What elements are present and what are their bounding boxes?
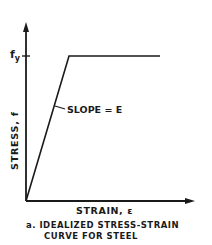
stress-axis-label: STRESS, f	[9, 111, 20, 170]
caption-line-2: CURVE FOR STEEL	[44, 231, 138, 241]
stress-axis-arrow-icon	[23, 22, 29, 32]
stress-strain-curve	[26, 56, 160, 201]
strain-axis-label: STRAIN, ε	[76, 205, 133, 216]
slope-label: SLOPE = E	[67, 104, 122, 115]
stress-strain-figure: fy SLOPE = E STRESS, f STRAIN, ε a. IDEA…	[0, 0, 212, 245]
slope-leader	[55, 106, 65, 109]
fy-label: fy	[10, 48, 21, 63]
strain-axis-arrow-icon	[185, 198, 195, 204]
stress-strain-diagram: fy SLOPE = E STRESS, f STRAIN, ε a. IDEA…	[0, 0, 212, 245]
caption-line-1: a. IDEALIZED STRESS-STRAIN	[26, 220, 179, 230]
